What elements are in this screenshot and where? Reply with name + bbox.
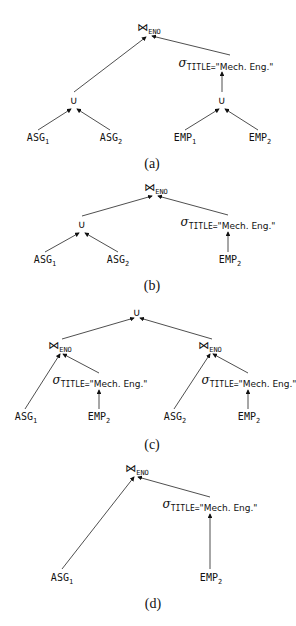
join-symbol: ⋈ [137, 21, 148, 34]
join-node: ⋈ENO [125, 462, 149, 477]
join-symbol: ⋈ [48, 339, 59, 352]
selection-node: σTITLE="Mech. Eng." [180, 215, 275, 231]
join-attr: ENO [148, 28, 161, 36]
selection-node: σTITLE="Mech. Eng." [162, 497, 257, 513]
relation-emp2: EMP2 [200, 572, 222, 586]
relation-asg1: ASG1 [27, 132, 49, 146]
join-attr: ENO [209, 346, 222, 354]
relation-asg2: ASG2 [107, 254, 129, 268]
union-node-right: ∪ [218, 94, 226, 107]
selection-value: "Mech. Eng." [90, 379, 148, 389]
union-node: ∪ [78, 218, 86, 231]
selection-attr: TITLE= [171, 504, 200, 513]
selection-value: "Mech. Eng." [239, 379, 296, 389]
join-node: ⋈ENO [137, 21, 161, 36]
join-symbol: ⋈ [144, 181, 155, 194]
relation-emp2-right: EMP2 [238, 411, 260, 425]
tree-edges [0, 0, 296, 626]
sigma-symbol: σ [178, 56, 186, 70]
selection-attr: TITLE= [189, 222, 218, 231]
sigma-symbol: σ [201, 373, 209, 387]
selection-value: "Mech. Eng." [218, 221, 276, 231]
selection-value: "Mech. Eng." [216, 62, 274, 72]
sigma-symbol: σ [180, 215, 188, 229]
caption-b: (b) [144, 278, 160, 294]
relation-emp2: EMP2 [219, 254, 241, 268]
selection-value: "Mech. Eng." [200, 503, 258, 513]
selection-node-left: σTITLE="Mech. Eng." [52, 373, 147, 389]
selection-node-right: σTITLE="Mech. Eng." [201, 373, 296, 389]
relation-asg1: ASG1 [15, 411, 37, 425]
join-attr: ENO [136, 469, 149, 477]
join-node-right: ⋈ENO [198, 339, 222, 354]
union-node-left: ∪ [70, 94, 78, 107]
join-symbol: ⋈ [125, 462, 136, 475]
relation-asg2: ASG2 [100, 132, 122, 146]
caption-d: (d) [145, 596, 161, 612]
union-node: ∪ [133, 306, 141, 319]
sigma-symbol: σ [162, 497, 170, 511]
relation-emp1: EMP1 [174, 132, 196, 146]
selection-node: σTITLE="Mech. Eng." [178, 56, 273, 72]
relation-emp2-left: EMP2 [88, 411, 110, 425]
join-symbol: ⋈ [198, 339, 209, 352]
selection-attr: TITLE= [187, 63, 216, 72]
selection-attr: TITLE= [61, 380, 90, 389]
relation-asg1: ASG1 [34, 254, 56, 268]
join-node-left: ⋈ENO [48, 339, 72, 354]
caption-a: (a) [144, 156, 160, 172]
join-node: ⋈ENO [144, 181, 168, 196]
caption-c: (c) [144, 437, 160, 453]
relation-asg1: ASG1 [51, 572, 73, 586]
relation-emp2: EMP2 [249, 132, 271, 146]
selection-attr: TITLE= [210, 380, 239, 389]
sigma-symbol: σ [52, 373, 60, 387]
join-attr: ENO [155, 188, 168, 196]
relation-asg2: ASG2 [164, 411, 186, 425]
join-attr: ENO [59, 346, 72, 354]
